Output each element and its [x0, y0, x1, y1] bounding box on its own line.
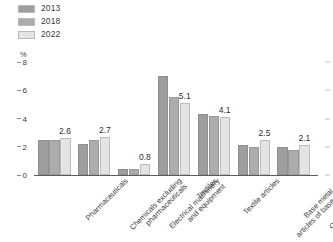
bar-group: 5.1 — [158, 62, 191, 175]
legend-item-2022: 2022 — [18, 29, 60, 40]
legend-label-2018: 2018 — [41, 17, 60, 26]
x-label-5: Base metal andarticles of base metal — [289, 177, 333, 240]
legend-swatch-2018 — [18, 18, 35, 26]
x-axis-labels: PharmaceuticalsChemicals excludingpharma… — [34, 177, 314, 239]
y-tick-0: 0 — [23, 171, 34, 180]
legend-swatch-2013 — [18, 5, 35, 13]
bar-value-label: 2.6 — [59, 126, 71, 136]
y-tick-dash — [17, 146, 21, 147]
bar-group: 2.5 — [238, 62, 271, 175]
plot-area: 02468 2.62.70.85.14.12.52.1 — [34, 62, 314, 175]
bar-group: 2.7 — [78, 62, 111, 175]
bar-group: 4.1 — [198, 62, 231, 175]
bar-2013 — [38, 140, 49, 175]
bar-2013 — [158, 76, 169, 175]
bar-2013 — [78, 144, 89, 175]
bar-2013 — [277, 147, 288, 175]
bar-2018 — [169, 97, 180, 175]
bar-2013 — [238, 145, 249, 175]
y-tick-6: 6 — [23, 86, 34, 95]
legend-label-2013: 2013 — [41, 4, 60, 13]
bar-2018 — [49, 140, 60, 175]
chart-legend: 2013 2018 2022 — [18, 3, 60, 40]
bar-2022 — [180, 103, 191, 175]
chart-footnote — [12, 237, 327, 242]
bar-2022 — [299, 145, 310, 175]
bar-2013 — [198, 114, 209, 175]
y-tick-4: 4 — [23, 114, 34, 123]
y-tick-right-6 — [325, 90, 330, 91]
bar-2018 — [209, 116, 220, 175]
legend-item-2013: 2013 — [18, 3, 60, 14]
x-label-0: Pharmaceuticals — [85, 177, 131, 223]
bar-2022 — [220, 117, 231, 175]
bar-chart-figure: 2013 2018 2022 % 02468 2.62.70.85.14.12.… — [0, 0, 333, 242]
x-label-line: Textile articles — [242, 177, 282, 217]
x-label-4: Textile articles — [242, 177, 282, 217]
bar-2018 — [249, 147, 260, 175]
y-tick-dash — [17, 62, 21, 63]
y-tick-right-0 — [325, 175, 330, 176]
bar-2022 — [140, 164, 151, 175]
y-tick-dash — [17, 118, 21, 119]
bar-groups: 2.62.70.85.14.12.52.1 — [34, 62, 314, 175]
legend-label-2022: 2022 — [41, 30, 60, 39]
bar-2018 — [89, 140, 100, 175]
bar-group: 2.6 — [38, 62, 71, 175]
bar-value-label: 2.5 — [259, 128, 271, 138]
bar-2022 — [100, 137, 111, 175]
bar-value-label: 5.1 — [179, 91, 191, 101]
bar-2018 — [288, 150, 299, 175]
y-tick-right-8 — [325, 62, 330, 63]
legend-item-2018: 2018 — [18, 16, 60, 27]
y-tick-8: 8 — [23, 58, 34, 67]
bar-2022 — [260, 140, 271, 175]
y-tick-dash — [17, 175, 21, 176]
bar-value-label: 2.1 — [299, 133, 311, 143]
y-tick-2: 2 — [23, 142, 34, 151]
y-tick-dash — [17, 90, 21, 91]
x-label-line: Pharmaceuticals — [85, 177, 131, 223]
bar-value-label: 2.7 — [99, 125, 111, 135]
bar-2022 — [60, 138, 71, 175]
bar-value-label: 0.8 — [139, 152, 151, 162]
bar-group: 2.1 — [277, 62, 310, 175]
y-tick-right-2 — [325, 146, 330, 147]
y-tick-right-4 — [325, 118, 330, 119]
bar-group: 0.8 — [118, 62, 151, 175]
legend-swatch-2022 — [18, 31, 35, 39]
bar-value-label: 4.1 — [219, 105, 231, 115]
